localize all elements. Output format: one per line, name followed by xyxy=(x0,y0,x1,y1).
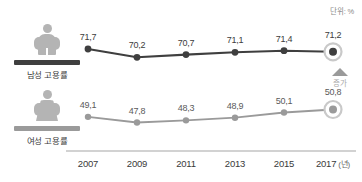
data-label: 50,8 xyxy=(325,87,342,97)
data-point[interactable] xyxy=(232,115,238,121)
data-point[interactable] xyxy=(183,51,190,58)
series-line-female xyxy=(88,110,333,123)
x-axis-tick: 2017 (년) xyxy=(316,158,350,169)
x-axis-tick-year: 2017 xyxy=(316,158,336,169)
data-point[interactable] xyxy=(183,117,189,123)
data-point[interactable] xyxy=(281,47,288,54)
x-axis-tick-year: 2007 xyxy=(78,158,98,169)
data-label: 71,1 xyxy=(227,35,244,45)
chart-page: 단위: % 남성 고용률 여성 고용률 71,770,270,771,171,4… xyxy=(0,0,362,182)
series-line-male xyxy=(88,49,333,57)
data-label: 50,1 xyxy=(276,96,293,106)
x-axis-tick-year: 2009 xyxy=(127,158,147,169)
data-label: 71,2 xyxy=(325,30,342,40)
x-axis-unit: (년) xyxy=(336,160,350,169)
data-point[interactable] xyxy=(329,48,337,56)
up-triangle-icon xyxy=(332,68,348,76)
x-axis-tick-year: 2013 xyxy=(225,158,245,169)
trend-label: 증가 xyxy=(325,77,355,88)
data-point[interactable] xyxy=(281,109,287,115)
data-label: 48,3 xyxy=(178,103,195,113)
data-label: 71,7 xyxy=(80,32,97,42)
x-axis-tick: 2007 xyxy=(78,158,98,169)
data-label: 71,4 xyxy=(276,34,293,44)
x-axis-tick: 2011 xyxy=(176,158,196,169)
data-point[interactable] xyxy=(134,119,140,125)
x-axis-tick: 2015 xyxy=(274,158,294,169)
x-axis-tick-year: 2015 xyxy=(274,158,294,169)
data-point[interactable] xyxy=(85,114,91,120)
data-label: 47,8 xyxy=(129,106,146,116)
data-point[interactable] xyxy=(329,105,337,113)
x-axis-tick: 2009 xyxy=(127,158,147,169)
plot-area: 71,770,270,771,171,471,249,147,848,348,9… xyxy=(0,0,362,182)
data-label: 48,9 xyxy=(227,101,244,111)
data-label: 70,2 xyxy=(129,40,146,50)
chart-svg xyxy=(0,0,362,182)
x-axis-line xyxy=(66,150,356,152)
data-point[interactable] xyxy=(232,49,239,56)
data-label: 70,7 xyxy=(178,38,195,48)
data-point[interactable] xyxy=(134,54,141,61)
x-axis-tick: 2013 xyxy=(225,158,245,169)
data-point[interactable] xyxy=(85,46,92,53)
x-axis-tick-year: 2011 xyxy=(176,158,196,169)
trend-marker: 증가 xyxy=(325,68,355,88)
data-label: 49,1 xyxy=(80,100,97,110)
